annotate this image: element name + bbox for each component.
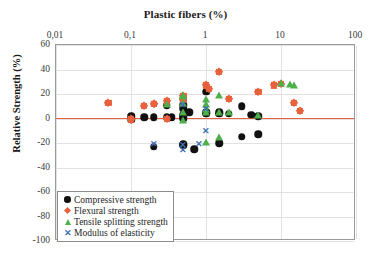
data-point-diamond [216, 69, 222, 75]
circle-marker-icon [62, 196, 73, 202]
data-point-diamond [291, 99, 297, 105]
data-point-circle [150, 114, 158, 122]
y-tick-label: -40 [18, 162, 50, 172]
data-point-cross: ✕ [179, 101, 187, 110]
data-point-triangle [277, 79, 285, 86]
x-tick-label: 0,1 [124, 30, 136, 40]
legend-item[interactable]: Tensile splitting strength [62, 216, 168, 227]
scatter-chart: Plastic fibers (%) Relative Strength (%)… [0, 0, 371, 262]
data-point-diamond [225, 96, 231, 102]
data-point-cross: ✕ [195, 140, 203, 149]
data-point-diamond [297, 108, 303, 114]
legend-item-label: Tensile splitting strength [74, 217, 168, 227]
diamond-marker-icon [62, 208, 73, 213]
data-point-triangle [202, 138, 210, 145]
y-tick-label: -20 [18, 137, 50, 147]
data-point-triangle [225, 109, 233, 116]
legend-item-label: Modulus of elasticity [74, 228, 155, 238]
data-point-triangle [290, 82, 298, 89]
data-point-cross: ✕ [202, 104, 210, 113]
x-tick-label: 100 [348, 30, 362, 40]
y-tick-label: -60 [18, 186, 50, 196]
data-point-diamond [150, 101, 156, 107]
cross-marker-icon: ✕ [62, 229, 73, 237]
gridline-vertical [281, 45, 282, 239]
data-point-triangle [215, 92, 223, 99]
data-point-diamond [206, 86, 212, 92]
data-point-triangle [215, 133, 223, 140]
data-point-triangle [163, 100, 171, 107]
data-point-diamond [128, 115, 134, 121]
data-point-triangle [215, 109, 223, 116]
data-point-diamond [105, 99, 111, 105]
y-tick-label: 40 [18, 64, 50, 74]
data-point-diamond [255, 88, 261, 94]
triangle-marker-icon [62, 219, 73, 225]
y-tick-label: -100 [18, 235, 50, 245]
x-tick-label: 1 [203, 30, 208, 40]
gridline-horizontal [56, 70, 354, 71]
chart-legend: Compressive strengthFlexural strengthTen… [57, 191, 174, 242]
data-point-triangle [179, 116, 187, 123]
data-point-cross: ✕ [179, 146, 187, 155]
chart-title: Plastic fibers (%) [0, 8, 371, 20]
legend-item-label: Flexural strength [74, 206, 139, 216]
data-point-circle [215, 139, 223, 147]
legend-item[interactable]: Flexural strength [62, 205, 168, 216]
data-point-cross: ✕ [150, 140, 158, 149]
data-point-cross: ✕ [202, 126, 210, 135]
gridline-horizontal [56, 168, 354, 169]
legend-item[interactable]: ✕Modulus of elasticity [62, 227, 168, 238]
data-point-circle [238, 103, 246, 111]
data-point-triangle [179, 109, 187, 116]
data-point-circle [140, 114, 148, 122]
y-tick-label: 60 [18, 39, 50, 49]
data-point-diamond [164, 115, 170, 121]
y-tick-label: 20 [18, 88, 50, 98]
zero-reference-line [56, 118, 354, 120]
data-point-circle [255, 131, 263, 139]
gridline-vertical [356, 45, 357, 239]
gridline-horizontal [56, 45, 354, 46]
x-tick-label: 10 [275, 30, 285, 40]
data-point-diamond [141, 103, 147, 109]
legend-item[interactable]: Compressive strength [62, 194, 168, 205]
data-point-circle [238, 133, 246, 141]
data-point-triangle [254, 111, 262, 118]
y-tick-label: -80 [18, 211, 50, 221]
legend-item-label: Compressive strength [74, 195, 157, 205]
y-tick-label: 0 [18, 113, 50, 123]
